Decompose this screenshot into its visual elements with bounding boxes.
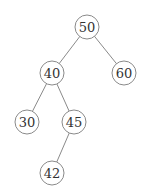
edges xyxy=(27,27,124,173)
tree-node-40: 40 xyxy=(40,61,64,85)
tree-node-60: 60 xyxy=(112,61,136,85)
node-label: 40 xyxy=(44,66,61,81)
tree-diagram: 50 40 60 30 45 42 xyxy=(0,0,147,195)
tree-node-50: 50 xyxy=(75,15,99,39)
node-label: 60 xyxy=(116,66,133,81)
node-label: 42 xyxy=(44,166,61,181)
node-label: 45 xyxy=(66,115,83,130)
tree-node-45: 45 xyxy=(62,110,86,134)
node-label: 50 xyxy=(79,20,96,35)
node-label: 30 xyxy=(19,115,36,130)
tree-node-42: 42 xyxy=(40,161,64,185)
tree-node-30: 30 xyxy=(15,110,39,134)
